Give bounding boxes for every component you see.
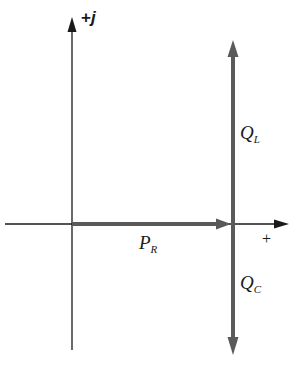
qc-symbol: Q — [240, 272, 254, 293]
ql-subscript: L — [254, 133, 260, 145]
real-axis-arrowhead — [274, 220, 289, 229]
ql-label: QL — [240, 122, 260, 145]
pr-label: PR — [139, 232, 157, 255]
pr-symbol: P — [139, 232, 151, 253]
pr-phasor-arrowhead — [216, 219, 231, 230]
imaginary-axis-label: +j — [81, 8, 96, 28]
qc-subscript: C — [254, 283, 261, 295]
imag-plus-sign: + — [81, 8, 91, 27]
imaginary-axis-arrowhead — [68, 17, 77, 32]
diagram-graphics — [0, 0, 300, 368]
pr-subscript: R — [151, 243, 158, 255]
qc-label: QC — [240, 272, 261, 295]
qc-phasor-arrowhead — [228, 337, 239, 355]
ql-phasor-arrowhead — [228, 40, 239, 57]
ql-symbol: Q — [240, 122, 254, 143]
real-axis-plus-label: + — [262, 230, 271, 248]
phasor-diagram: +j + PR QL QC — [0, 0, 300, 368]
imag-j-symbol: j — [91, 8, 96, 27]
